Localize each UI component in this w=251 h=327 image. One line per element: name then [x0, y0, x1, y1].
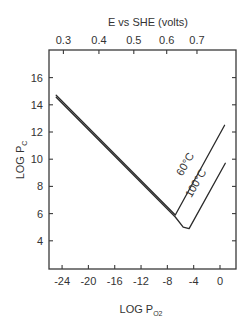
top-tick-label: 0.7 [189, 34, 204, 46]
top-tick-label: 0.5 [126, 34, 141, 46]
curve-labels: 60°C100°C [174, 150, 209, 199]
y-tick-label: 16 [31, 72, 43, 84]
series-line-100c [56, 97, 225, 228]
x-tick-label: -20 [80, 275, 96, 287]
top-axis-title: E vs SHE (volts) [108, 16, 188, 28]
plot-frame [49, 50, 236, 269]
y-tick-label: 14 [31, 99, 43, 111]
y-tick-label: 12 [31, 126, 43, 138]
y-tick-label: 10 [31, 153, 43, 165]
x-tick-label: -16 [107, 275, 123, 287]
data-series [56, 95, 225, 228]
x-axis-title: LOG PO2 [120, 303, 163, 317]
y-axis-title: LOG PC [14, 141, 28, 180]
top-tick-label: 0.4 [91, 34, 106, 46]
x-tick-label: 0 [217, 275, 223, 287]
y-tick-label: 8 [37, 180, 43, 192]
x-axis-ticks: -24-20-16-12-8-40 [54, 265, 223, 287]
x-tick-label: -24 [54, 275, 70, 287]
top-tick-label: 0.6 [159, 34, 174, 46]
x-axis-title-sub: O2 [153, 310, 162, 317]
series-line-60c [56, 95, 224, 215]
x-tick-label: -12 [133, 275, 149, 287]
y-tick-label: 6 [37, 208, 43, 220]
x-tick-label: -8 [162, 275, 172, 287]
x-tick-label: -4 [189, 275, 199, 287]
top-axis-ticks: 0.30.40.50.60.7 [56, 34, 205, 54]
top-tick-label: 0.3 [56, 34, 71, 46]
y-axis-title-main: LOG P [14, 146, 26, 180]
y-axis-title-sub: C [21, 141, 28, 146]
x-axis-title-main: LOG P [120, 303, 154, 315]
chart: -24-20-16-12-8-40 46810121416 0.30.40.50… [0, 0, 251, 327]
y-tick-label: 4 [37, 235, 43, 247]
